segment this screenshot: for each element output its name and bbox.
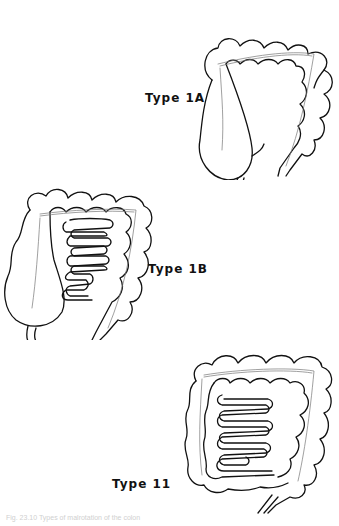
panel-type-11	[180, 345, 339, 519]
label-type-11: Type 11	[112, 477, 171, 491]
colon-illustration-type-11	[180, 345, 339, 515]
label-type-1a: Type 1A	[145, 91, 205, 105]
panel-type-1a	[190, 20, 339, 184]
panel-type-1b	[0, 180, 160, 344]
colon-illustration-type-1b	[0, 180, 160, 340]
figure-caption: Fig. 23.10 Types of malrotation of the c…	[6, 514, 140, 521]
colon-illustration-type-1a	[190, 20, 339, 180]
label-type-1b: Type 1B	[148, 262, 208, 276]
